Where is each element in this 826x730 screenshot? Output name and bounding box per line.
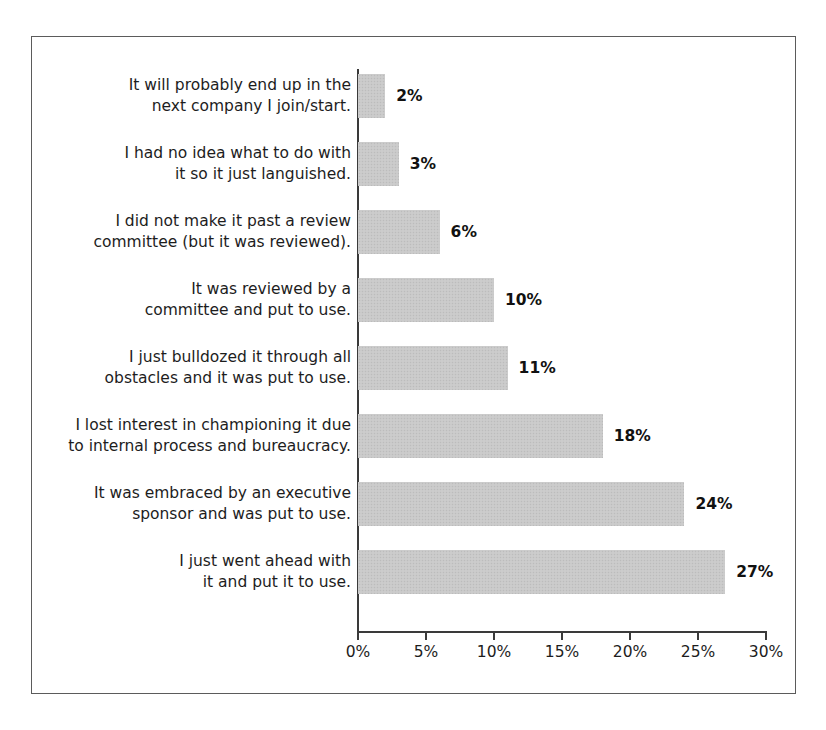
bar[interactable] [358, 346, 508, 390]
bar-category-label: I had no idea what to do with it so it j… [21, 143, 351, 185]
bar[interactable] [358, 550, 725, 594]
bar-category-label: I lost interest in championing it due to… [21, 415, 351, 457]
bar-track: 6% [358, 210, 440, 254]
bar-value-label: 6% [451, 223, 477, 241]
bar-row: I just went ahead with it and put it to … [32, 550, 797, 594]
bar-row: It was embraced by an executive sponsor … [32, 482, 797, 526]
bar-track: 2% [358, 74, 385, 118]
bar[interactable] [358, 210, 440, 254]
bar-track: 11% [358, 346, 508, 390]
x-axis-tick [425, 631, 427, 640]
x-axis-tick-label: 5% [414, 643, 439, 661]
bar-category-label: I did not make it past a review committe… [21, 211, 351, 253]
chart-page: It will probably end up in the next comp… [0, 0, 826, 730]
x-axis-tick [765, 631, 767, 640]
bar-row: I lost interest in championing it due to… [32, 414, 797, 458]
x-axis-tick-label: 0% [346, 643, 371, 661]
bar-track: 3% [358, 142, 399, 186]
bar[interactable] [358, 74, 385, 118]
bar-value-label: 24% [695, 495, 732, 513]
chart-title [0, 0, 826, 3]
bar-track: 18% [358, 414, 603, 458]
bar-value-label: 18% [614, 427, 651, 445]
bar-row: It will probably end up in the next comp… [32, 74, 797, 118]
bar[interactable] [358, 414, 603, 458]
bar-track: 10% [358, 278, 494, 322]
x-axis-tick-label: 25% [681, 643, 715, 661]
bar[interactable] [358, 278, 494, 322]
x-axis-tick-label: 20% [613, 643, 647, 661]
bar-category-label: It will probably end up in the next comp… [21, 75, 351, 117]
x-axis-tick [629, 631, 631, 640]
bar-value-label: 11% [519, 359, 556, 377]
chart-frame: It will probably end up in the next comp… [31, 36, 796, 694]
bar-category-label: I just went ahead with it and put it to … [21, 551, 351, 593]
bar-row: I just bulldozed it through all obstacle… [32, 346, 797, 390]
x-axis-tick [561, 631, 563, 640]
bar-value-label: 2% [396, 87, 422, 105]
bar-value-label: 3% [410, 155, 436, 173]
bar-row: I did not make it past a review committe… [32, 210, 797, 254]
bar-value-label: 27% [736, 563, 773, 581]
x-axis-tick-label: 10% [477, 643, 511, 661]
x-axis-tick-label: 30% [749, 643, 783, 661]
x-axis-tick [493, 631, 495, 640]
x-axis-tick-label: 15% [545, 643, 579, 661]
bar-value-label: 10% [505, 291, 542, 309]
bar-track: 27% [358, 550, 725, 594]
bar-category-label: It was embraced by an executive sponsor … [21, 483, 351, 525]
bar[interactable] [358, 482, 684, 526]
x-axis-tick [357, 631, 359, 640]
x-axis-tick [697, 631, 699, 640]
bar-category-label: I just bulldozed it through all obstacle… [21, 347, 351, 389]
bar-row: I had no idea what to do with it so it j… [32, 142, 797, 186]
bar-row: It was reviewed by a committee and put t… [32, 278, 797, 322]
bar[interactable] [358, 142, 399, 186]
bar-category-label: It was reviewed by a committee and put t… [21, 279, 351, 321]
bar-track: 24% [358, 482, 684, 526]
plot-area: It will probably end up in the next comp… [32, 37, 797, 695]
